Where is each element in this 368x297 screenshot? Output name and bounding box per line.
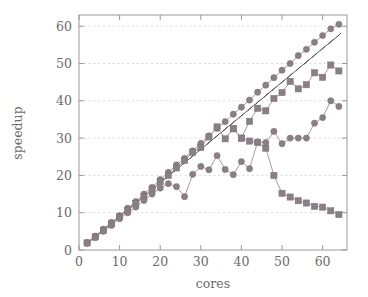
marker-circle: [125, 210, 131, 216]
x-tick-label-60: 60: [315, 254, 331, 269]
x-tick-label-20: 20: [152, 254, 168, 269]
marker-square: [303, 82, 309, 88]
marker-circle: [255, 89, 261, 95]
marker-square: [230, 126, 236, 132]
marker-circle: [108, 222, 114, 228]
marker-square: [206, 134, 212, 140]
y-tick-label-30: 30: [56, 131, 72, 146]
marker-circle: [263, 139, 269, 145]
speedup-chart-figure: 01020304050600102030405060 cores speedup: [0, 0, 368, 297]
marker-square: [287, 78, 293, 84]
marker-square: [165, 172, 171, 178]
marker-circle: [230, 172, 236, 178]
marker-square: [173, 165, 179, 171]
marker-square: [287, 194, 293, 200]
y-tick-label-40: 40: [56, 93, 72, 108]
marker-square: [263, 108, 269, 114]
x-axis-label: cores: [196, 276, 230, 291]
marker-square: [279, 89, 285, 95]
marker-square: [328, 62, 334, 68]
gridlines: [79, 26, 347, 213]
marker-circle: [271, 128, 277, 134]
marker-circle: [117, 216, 123, 222]
marker-square: [311, 70, 317, 76]
marker-circle: [100, 228, 106, 234]
marker-square: [190, 149, 196, 155]
marker-square: [311, 203, 317, 209]
marker-circle: [165, 181, 171, 187]
marker-circle: [287, 60, 293, 66]
marker-circle: [336, 21, 342, 27]
marker-square: [295, 86, 301, 92]
marker-tick: [296, 67, 300, 71]
marker-tick: [231, 120, 235, 124]
marker-tick: [207, 140, 211, 144]
marker-circle: [190, 171, 196, 177]
marker-circle: [133, 204, 139, 210]
marker-circle: [320, 32, 326, 38]
marker-circle: [311, 39, 317, 45]
marker-square: [336, 211, 342, 217]
marker-square: [214, 124, 220, 130]
marker-circle: [328, 26, 334, 32]
marker-tick: [312, 53, 316, 57]
marker-circle: [92, 235, 98, 241]
marker-square: [222, 136, 228, 142]
tick-labels: 01020304050600102030405060: [56, 19, 331, 269]
marker-circle: [303, 135, 309, 141]
marker-tick: [320, 46, 324, 50]
marker-circle: [84, 240, 90, 246]
marker-tick: [247, 107, 251, 111]
x-tick-label-50: 50: [274, 254, 290, 269]
marker-circle: [206, 167, 212, 173]
series-near-linear-scaling: [84, 21, 342, 245]
marker-tick: [337, 33, 341, 37]
marker-square: [246, 138, 252, 144]
x-tick-label-30: 30: [193, 254, 209, 269]
x-tick-label-0: 0: [75, 254, 83, 269]
marker-square: [246, 118, 252, 124]
marker-circle: [238, 158, 244, 164]
marker-circle: [320, 114, 326, 120]
y-tick-label-10: 10: [56, 205, 72, 220]
marker-square: [271, 95, 277, 101]
marker-square: [295, 198, 301, 204]
marker-square: [263, 145, 269, 151]
marker-circle: [255, 139, 261, 145]
marker-tick: [329, 40, 333, 44]
marker-tick: [215, 134, 219, 138]
marker-circle: [303, 46, 309, 52]
marker-circle: [149, 191, 155, 197]
marker-circle: [328, 98, 334, 104]
marker-tick: [264, 93, 268, 97]
marker-square: [271, 172, 277, 178]
marker-square: [320, 204, 326, 210]
series-plateau-series: [84, 98, 342, 247]
marker-circle: [230, 111, 236, 117]
marker-circle: [246, 166, 252, 172]
marker-circle: [311, 120, 317, 126]
marker-square: [328, 208, 334, 214]
y-tick-label-0: 0: [64, 243, 72, 258]
marker-circle: [214, 153, 220, 159]
marker-square: [181, 157, 187, 163]
marker-circle: [173, 183, 179, 189]
x-tick-label-40: 40: [233, 254, 249, 269]
marker-circle: [246, 97, 252, 103]
marker-square: [157, 179, 163, 185]
x-tick-label-10: 10: [112, 254, 128, 269]
marker-circle: [279, 67, 285, 73]
marker-circle: [141, 197, 147, 203]
marker-square: [255, 105, 261, 111]
y-tick-label-60: 60: [56, 19, 72, 34]
marker-tick: [272, 87, 276, 91]
marker-circle: [181, 194, 187, 200]
marker-circle: [336, 103, 342, 109]
y-tick-label-50: 50: [56, 56, 72, 71]
y-tick-label-20: 20: [56, 168, 72, 183]
marker-tick: [223, 127, 227, 131]
marker-square: [238, 135, 244, 141]
chart-canvas: 01020304050600102030405060 cores speedup: [0, 0, 368, 297]
marker-circle: [222, 166, 228, 172]
marker-square: [279, 190, 285, 196]
